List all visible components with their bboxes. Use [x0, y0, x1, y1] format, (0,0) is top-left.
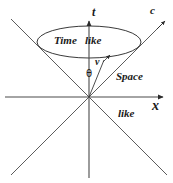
lightcone-diagram-canvas — [0, 0, 173, 183]
velocity-vector-label: v — [95, 57, 99, 67]
angle-theta-label: θ — [86, 69, 92, 79]
speed-of-light-arrow — [157, 21, 165, 29]
cone-line-lower-left — [11, 97, 89, 175]
spacelike-region-label-word-one: Space — [116, 71, 143, 82]
space-axis-label: x — [152, 99, 159, 113]
time-axis-label: t — [92, 6, 95, 18]
timelike-region-label-word-two: like — [85, 35, 102, 46]
speed-of-light-label: c — [150, 5, 155, 16]
velocity-vector-accent-arrow — [103, 55, 110, 62]
timelike-region-label-word-one: Time — [54, 35, 77, 46]
spacelike-region-label-word-two: like — [118, 108, 135, 119]
lightcone-figure: t c x v θ Time like Space like — [0, 0, 173, 183]
